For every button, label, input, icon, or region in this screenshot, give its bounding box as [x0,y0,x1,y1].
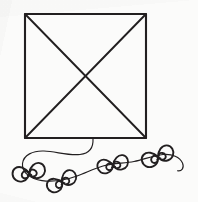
tail-bow-4 [140,143,176,169]
kite-drawing [0,0,198,202]
kite-sketch-canvas: Hand-drawn kite sketch [0,0,198,202]
kite-spars-x [25,14,146,138]
tail-bow-1 [11,162,46,183]
tail-bow-3 [96,154,130,175]
